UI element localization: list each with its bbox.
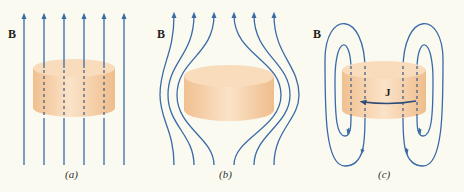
- panel-c: B: [305, 0, 464, 192]
- current-label-j: J: [385, 86, 391, 98]
- panel-b: B (b): [155, 0, 305, 192]
- uniform-field-diagram: [0, 0, 155, 192]
- caption-a: (a): [65, 168, 78, 180]
- panel-a: B (a): [0, 0, 155, 192]
- caption-b: (b): [219, 168, 232, 180]
- caption-c: (c): [378, 168, 390, 180]
- expelled-field-diagram: [155, 0, 305, 192]
